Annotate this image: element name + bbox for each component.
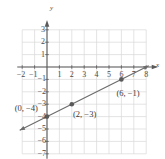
y-tick-label: −3	[38, 100, 47, 108]
y-tick-label: −6	[38, 137, 47, 145]
point-coordinate-label: (2, −3)	[73, 110, 96, 119]
y-tick-label: 2	[41, 38, 45, 46]
x-axis-label: x	[156, 62, 159, 69]
y-tick-label: −1	[38, 75, 47, 83]
x-tick-label: 2	[70, 71, 74, 79]
x-tick-label: 8	[144, 71, 148, 79]
x-tick-label: −2	[17, 71, 26, 79]
y-tick-label: −5	[38, 125, 47, 133]
coordinate-plane-figure: y x −2−112345678321−1−2−3−4−5−6−7 (0, −4…	[0, 0, 165, 159]
point-coordinate-label: (6, −1)	[116, 89, 139, 98]
data-point	[70, 102, 75, 107]
x-tick-label: 3	[82, 71, 86, 79]
plot-svg	[0, 0, 165, 159]
x-tick-label: 6	[119, 71, 123, 79]
x-tick-label: 5	[107, 71, 111, 79]
y-tick-label: 3	[41, 26, 45, 34]
point-coordinate-label: (0, −4)	[15, 104, 38, 113]
y-tick-label: −2	[38, 88, 47, 96]
y-tick-label: −4	[38, 113, 47, 121]
x-tick-label: 7	[132, 71, 136, 79]
x-tick-label: −1	[29, 71, 38, 79]
x-tick-label: 1	[57, 71, 61, 79]
y-tick-label: 1	[41, 51, 45, 59]
x-tick-label: 4	[95, 71, 99, 79]
y-axis-label: y	[50, 5, 53, 12]
y-tick-label: −7	[38, 150, 47, 158]
